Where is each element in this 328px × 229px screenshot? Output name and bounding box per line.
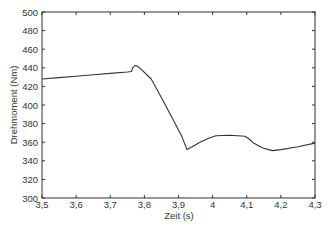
y-tick-label: 360 bbox=[22, 137, 38, 148]
y-tick-label: 400 bbox=[22, 100, 38, 111]
y-tick-label: 460 bbox=[22, 44, 38, 55]
plot-box bbox=[42, 12, 315, 198]
x-axis-label: Zeit (s) bbox=[164, 210, 194, 221]
x-tick-label: 4,1 bbox=[240, 199, 253, 210]
x-tick-label: 4 bbox=[210, 199, 215, 210]
x-tick-label: 3,8 bbox=[138, 199, 151, 210]
plot-frame bbox=[42, 12, 315, 198]
y-tick-label: 300 bbox=[22, 193, 38, 204]
x-tick-label: 3,9 bbox=[172, 199, 185, 210]
y-tick-label: 500 bbox=[22, 7, 38, 18]
y-axis-ticks: 300320340360380400420440460480500 bbox=[22, 7, 315, 204]
y-tick-label: 420 bbox=[22, 81, 38, 92]
y-tick-label: 440 bbox=[22, 62, 38, 73]
x-axis-ticks: 3,53,63,73,83,944,14,24,3 bbox=[35, 12, 321, 210]
x-tick-label: 3,7 bbox=[104, 199, 117, 210]
y-tick-label: 340 bbox=[22, 155, 38, 166]
torque-series-line bbox=[42, 66, 315, 151]
x-tick-label: 4,2 bbox=[274, 199, 287, 210]
y-tick-label: 480 bbox=[22, 25, 38, 36]
y-axis-label: Drehmoment (Nm) bbox=[8, 66, 19, 145]
y-tick-label: 320 bbox=[22, 174, 38, 185]
x-tick-label: 4,3 bbox=[308, 199, 321, 210]
y-tick-label: 380 bbox=[22, 118, 38, 129]
x-tick-label: 3,6 bbox=[70, 199, 83, 210]
series-layer bbox=[42, 66, 315, 151]
torque-line-chart: 3,53,63,73,83,944,14,24,3 30032034036038… bbox=[0, 0, 328, 229]
